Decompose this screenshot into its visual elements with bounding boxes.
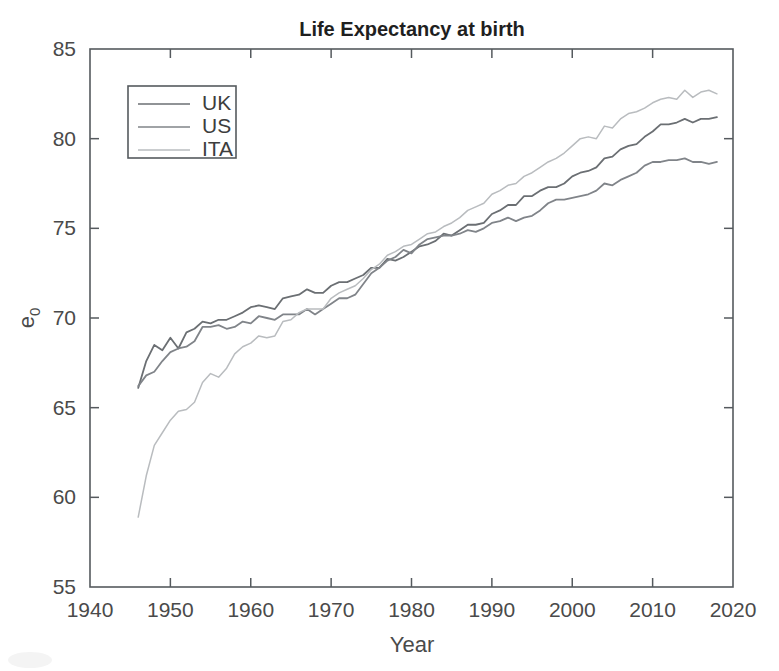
x-tick-label: 1960	[227, 598, 274, 621]
legend-label-uk[interactable]: UK	[202, 91, 231, 114]
legend-label-ita[interactable]: ITA	[202, 137, 233, 160]
figure-container: Life Expectancy at birth 55606570758085 …	[0, 0, 779, 671]
x-tick-label: 1970	[308, 598, 355, 621]
legend-label-us[interactable]: US	[202, 114, 231, 137]
x-tick-label: 2010	[629, 598, 676, 621]
x-tick-label: 1990	[469, 598, 516, 621]
x-tick-label: 2020	[710, 598, 757, 621]
y-tick-label: 85	[53, 37, 76, 60]
y-tick-label: 55	[53, 575, 76, 598]
life-expectancy-line-chart: Life Expectancy at birth 55606570758085 …	[0, 0, 779, 671]
chart-title: Life Expectancy at birth	[299, 18, 525, 40]
y-axis-title-subscript: 0	[26, 308, 43, 316]
y-axis-title-base: e	[14, 316, 39, 328]
x-tick-label: 2000	[549, 598, 596, 621]
y-tick-label: 70	[53, 306, 76, 329]
x-tick-label: 1980	[388, 598, 435, 621]
x-tick-label: 1940	[67, 598, 114, 621]
y-tick-label: 80	[53, 127, 76, 150]
scan-artifact-smudge	[8, 652, 52, 668]
x-axis-title: Year	[390, 632, 434, 657]
figure-background	[0, 0, 779, 671]
y-tick-label: 60	[53, 485, 76, 508]
x-tick-label: 1950	[147, 598, 194, 621]
chart-legend[interactable]: UKUSITA	[128, 86, 236, 160]
y-tick-label: 65	[53, 396, 76, 419]
y-tick-label: 75	[53, 216, 76, 239]
